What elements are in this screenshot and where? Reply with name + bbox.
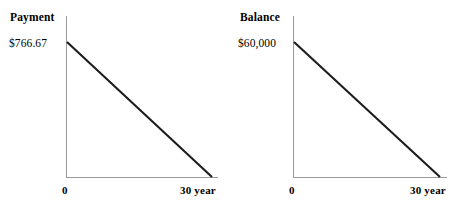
balance-data-line [294, 42, 440, 177]
payment-data-line [67, 42, 212, 177]
balance-y-intercept-label: $60,000 [238, 38, 276, 50]
payment-y-intercept-label: $766.67 [9, 38, 47, 50]
figure-canvas: Payment $766.67 0 30 year Balance $60,00… [0, 0, 460, 205]
balance-chart: Balance $60,000 0 30 year [230, 0, 460, 205]
balance-x-tick-start: 0 [289, 185, 295, 196]
balance-chart-title: Balance [240, 12, 280, 24]
payment-chart-plot [0, 0, 230, 205]
payment-x-tick-end: 30 year [180, 185, 216, 196]
balance-x-tick-end: 30 year [410, 185, 446, 196]
payment-chart: Payment $766.67 0 30 year [0, 0, 230, 205]
payment-x-tick-start: 0 [62, 185, 68, 196]
payment-chart-title: Payment [10, 12, 54, 24]
balance-chart-plot [230, 0, 460, 205]
